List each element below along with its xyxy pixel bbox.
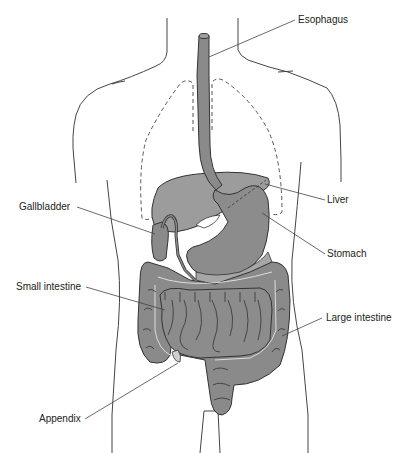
anatomy-drawing: [0, 0, 410, 453]
label-gallbladder: Gallbladder: [19, 202, 70, 212]
esophagus: [197, 36, 222, 190]
label-liver: Liver: [327, 195, 349, 205]
label-esophagus: Esophagus: [298, 15, 348, 25]
gallbladder: [152, 222, 169, 261]
label-appendix: Appendix: [39, 414, 81, 424]
label-small-intestine: Small intestine: [16, 282, 81, 292]
digestive-system-diagram: Esophagus Liver Gallbladder Stomach Smal…: [0, 0, 410, 453]
appendix: [172, 350, 181, 362]
label-stomach: Stomach: [327, 249, 366, 259]
label-large-intestine: Large intestine: [326, 313, 392, 323]
